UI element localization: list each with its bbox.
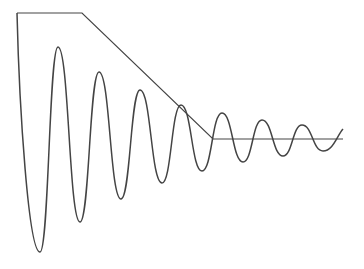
damped-wave-curve	[17, 13, 343, 252]
damped-oscillation-diagram	[0, 0, 364, 269]
envelope-line	[17, 13, 343, 139]
